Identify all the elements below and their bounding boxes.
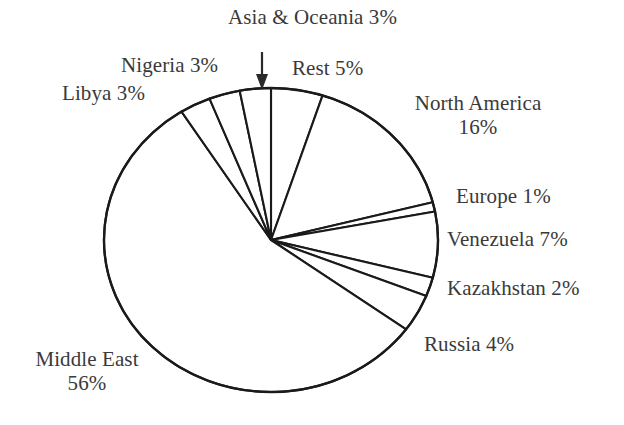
label-kazakhstan: Kazakhstan 2%: [447, 277, 580, 300]
label-middle-east-pct: 56%: [12, 372, 162, 396]
label-asia-oceania: Asia & Oceania 3%: [228, 6, 397, 29]
label-north-america-name: North America: [415, 91, 542, 115]
asia-oceania-arrow: [256, 52, 268, 90]
label-rest: Rest 5%: [292, 57, 363, 80]
label-nigeria: Nigeria 3%: [121, 54, 218, 77]
label-middle-east-name: Middle East: [35, 347, 138, 371]
label-north-america: North America 16%: [388, 92, 568, 139]
pie-chart-figure: Asia & Oceania 3% Nigeria 3% Libya 3% Re…: [0, 0, 624, 425]
label-venezuela: Venezuela 7%: [447, 228, 568, 251]
label-europe: Europe 1%: [456, 185, 551, 208]
label-libya: Libya 3%: [62, 82, 145, 105]
label-russia: Russia 4%: [424, 333, 514, 356]
label-middle-east: Middle East 56%: [12, 348, 162, 395]
label-north-america-pct: 16%: [388, 116, 568, 140]
